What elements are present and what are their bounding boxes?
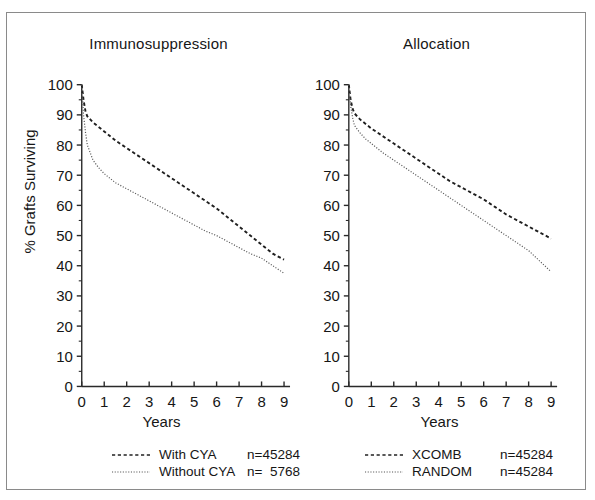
- legend-label: XCOMB: [412, 446, 500, 463]
- svg-text:2: 2: [390, 393, 398, 410]
- svg-text:100: 100: [315, 76, 340, 93]
- legend-count: n= 5768: [247, 463, 300, 480]
- svg-text:8: 8: [524, 393, 532, 410]
- svg-text:7: 7: [235, 393, 243, 410]
- svg-text:50: 50: [56, 227, 73, 244]
- svg-text:4: 4: [435, 393, 443, 410]
- legend-allocation: XCOMB n=45284 RANDOM n=45284: [365, 446, 553, 480]
- legend-count: n=45284: [500, 463, 553, 480]
- figure-frame: Immunosuppression % Grafts Surviving 010…: [6, 12, 586, 490]
- svg-text:5: 5: [457, 393, 465, 410]
- svg-text:3: 3: [412, 393, 420, 410]
- svg-text:80: 80: [56, 137, 73, 154]
- svg-text:60: 60: [56, 197, 73, 214]
- svg-text:4: 4: [167, 393, 175, 410]
- svg-text:8: 8: [257, 393, 265, 410]
- svg-text:80: 80: [323, 137, 340, 154]
- svg-text:30: 30: [323, 287, 340, 304]
- legend-item: RANDOM n=45284: [365, 463, 553, 480]
- x-axis-label-left: Years: [7, 413, 296, 430]
- svg-text:3: 3: [145, 393, 153, 410]
- legend-label: With CYA: [159, 446, 247, 463]
- legend-label: Without CYA: [159, 463, 247, 480]
- svg-text:0: 0: [78, 393, 86, 410]
- legend-item: XCOMB n=45284: [365, 446, 553, 463]
- svg-text:90: 90: [56, 106, 73, 123]
- x-axis-label-right: Years: [296, 413, 585, 430]
- svg-text:0: 0: [64, 378, 72, 395]
- svg-text:5: 5: [190, 393, 198, 410]
- chart-panel-allocation: Allocation 01020304050607080901000123456…: [296, 13, 585, 489]
- legend-item: Without CYA n= 5768: [112, 463, 300, 480]
- svg-text:70: 70: [323, 167, 340, 184]
- svg-text:70: 70: [56, 167, 73, 184]
- svg-text:40: 40: [56, 257, 73, 274]
- svg-text:10: 10: [323, 348, 340, 365]
- svg-text:6: 6: [212, 393, 220, 410]
- legend-line-dotted-icon: [112, 467, 150, 477]
- legend-line-dotted-icon: [365, 467, 403, 477]
- svg-text:6: 6: [480, 393, 488, 410]
- legend-item: With CYA n=45284: [112, 446, 300, 463]
- svg-text:40: 40: [323, 257, 340, 274]
- svg-text:30: 30: [56, 287, 73, 304]
- svg-text:20: 20: [323, 318, 340, 335]
- svg-text:60: 60: [323, 197, 340, 214]
- legend-count: n=45284: [247, 446, 300, 463]
- svg-text:0: 0: [332, 378, 340, 395]
- svg-text:90: 90: [323, 106, 340, 123]
- chart-panel-immunosuppression: Immunosuppression % Grafts Surviving 010…: [7, 13, 296, 489]
- svg-text:9: 9: [547, 393, 555, 410]
- svg-text:7: 7: [502, 393, 510, 410]
- svg-text:20: 20: [56, 318, 73, 335]
- svg-text:1: 1: [100, 393, 108, 410]
- svg-text:0: 0: [345, 393, 353, 410]
- legend-count: n=45284: [500, 446, 553, 463]
- svg-text:9: 9: [280, 393, 288, 410]
- legend-line-dashed-icon: [112, 450, 150, 460]
- svg-text:2: 2: [123, 393, 131, 410]
- svg-text:100: 100: [48, 76, 73, 93]
- svg-text:1: 1: [367, 393, 375, 410]
- legend-label: RANDOM: [412, 463, 500, 480]
- svg-text:50: 50: [323, 227, 340, 244]
- svg-text:10: 10: [56, 348, 73, 365]
- legend-line-dashed-icon: [365, 450, 403, 460]
- legend-immunosuppression: With CYA n=45284 Without CYA n= 5768: [112, 446, 300, 480]
